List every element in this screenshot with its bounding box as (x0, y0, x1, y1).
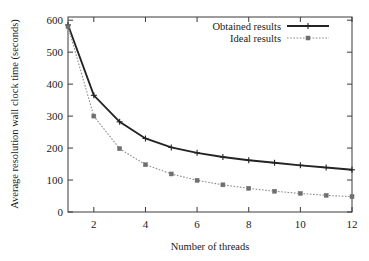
x-tick-label: 6 (194, 218, 200, 230)
x-tick-label: 10 (295, 218, 307, 230)
data-point-marker (221, 183, 225, 187)
data-point-marker (66, 25, 70, 29)
series-line-obtained-results (68, 25, 352, 170)
data-point-marker (297, 162, 303, 168)
x-tick-label: 4 (143, 218, 149, 230)
data-point-marker (169, 172, 173, 176)
legend-label: Obtained results (212, 21, 281, 32)
data-point-marker (324, 193, 328, 197)
y-tick-label: 300 (47, 110, 64, 122)
data-point-marker (195, 178, 199, 182)
data-point-marker (220, 154, 226, 160)
y-tick-label: 0 (58, 206, 64, 218)
x-tick-label: 12 (347, 218, 358, 230)
legend-label: Ideal results (230, 33, 281, 44)
x-tick-label: 2 (91, 218, 97, 230)
x-axis-tick-labels: 24681012 (91, 218, 357, 230)
legend-swatch-marker (306, 36, 310, 40)
y-axis-tick-labels: 0100200300400500600 (47, 14, 64, 218)
data-point-marker (92, 114, 96, 118)
line-chart: 0100200300400500600 24681012 Obtained re… (0, 0, 369, 261)
legend-swatch-marker (305, 23, 311, 29)
y-tick-label: 500 (47, 46, 64, 58)
data-point-marker (350, 195, 354, 199)
data-point-marker (298, 191, 302, 195)
y-axis-title: Average resolution wall clock time (seco… (9, 19, 21, 209)
data-point-marker (273, 189, 277, 193)
data-series-layer (65, 22, 355, 199)
chart-figure: 0100200300400500600 24681012 Obtained re… (0, 0, 369, 261)
data-point-marker (246, 157, 252, 163)
y-tick-label: 400 (47, 78, 64, 90)
x-tick-label: 8 (246, 218, 252, 230)
data-point-marker (247, 186, 251, 190)
data-point-marker (272, 160, 278, 166)
data-point-marker (143, 163, 147, 167)
y-axis-ticks (68, 20, 352, 212)
data-point-marker (349, 167, 355, 173)
x-axis-title: Number of threads (171, 241, 250, 252)
plot-frame (68, 17, 352, 212)
data-point-marker (168, 144, 174, 150)
chart-legend: Obtained resultsIdeal results (212, 21, 329, 44)
y-tick-label: 600 (47, 14, 64, 26)
data-point-marker (194, 150, 200, 156)
data-point-marker (118, 147, 122, 151)
y-tick-label: 100 (47, 174, 64, 186)
y-tick-label: 200 (47, 142, 64, 154)
data-point-marker (323, 165, 329, 171)
